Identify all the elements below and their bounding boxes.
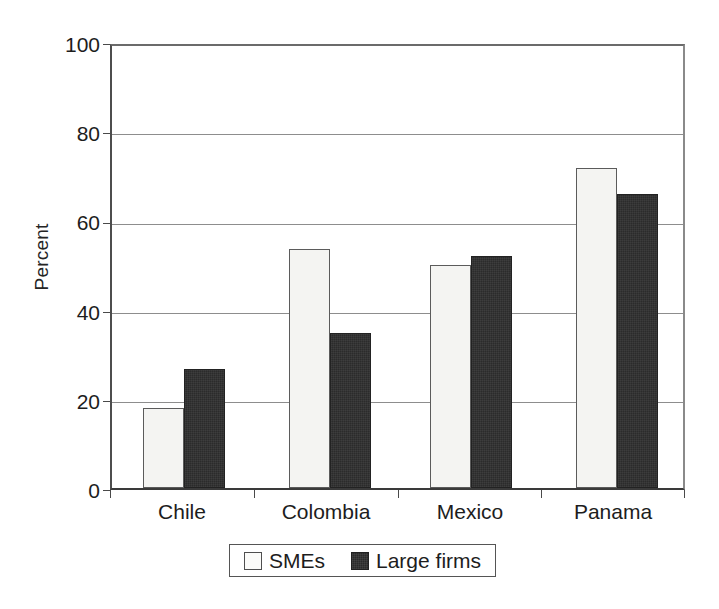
bar-chile-smes bbox=[143, 408, 184, 488]
bar-colombia-smes bbox=[289, 249, 330, 488]
x-label-panama: Panama bbox=[523, 500, 703, 524]
x-tick-mark-right bbox=[684, 490, 685, 498]
legend-swatch-large-firms-icon bbox=[351, 552, 369, 570]
y-tick-label-80: 80 bbox=[46, 123, 100, 144]
x-tick-mark-left bbox=[110, 490, 111, 498]
legend-label-smes: SMEs bbox=[269, 549, 325, 573]
x-tick-mark-3 bbox=[541, 490, 542, 498]
y-tick-mark-40 bbox=[103, 312, 110, 313]
y-tick-label-20: 20 bbox=[46, 391, 100, 412]
y-tick-mark-60 bbox=[103, 223, 110, 224]
bar-chart-figure: Percent 100 80 60 40 20 0 bbox=[0, 0, 719, 609]
legend-item-smes: SMEs bbox=[244, 549, 325, 573]
x-tick-mark-1 bbox=[254, 490, 255, 498]
bar-mexico-smes bbox=[430, 265, 471, 488]
chart-legend: SMEs Large firms bbox=[229, 544, 496, 577]
y-tick-label-60: 60 bbox=[46, 212, 100, 233]
gridline-80 bbox=[112, 134, 683, 135]
legend-label-large-firms: Large firms bbox=[376, 549, 481, 573]
bar-panama-large bbox=[617, 194, 658, 488]
bar-colombia-large bbox=[330, 333, 371, 488]
bar-mexico-large bbox=[471, 256, 512, 488]
y-tick-label-100: 100 bbox=[46, 34, 100, 55]
y-tick-mark-100 bbox=[103, 44, 110, 45]
plot-area bbox=[110, 44, 685, 490]
y-tick-label-0: 0 bbox=[46, 480, 100, 501]
y-tick-mark-0 bbox=[103, 490, 110, 491]
y-tick-label-40: 40 bbox=[46, 302, 100, 323]
bar-panama-smes bbox=[576, 168, 617, 488]
legend-item-large-firms: Large firms bbox=[351, 549, 481, 573]
y-tick-mark-80 bbox=[103, 133, 110, 134]
x-tick-mark-2 bbox=[398, 490, 399, 498]
legend-swatch-smes-icon bbox=[244, 552, 262, 570]
bar-chile-large bbox=[184, 369, 225, 488]
y-tick-mark-20 bbox=[103, 401, 110, 402]
